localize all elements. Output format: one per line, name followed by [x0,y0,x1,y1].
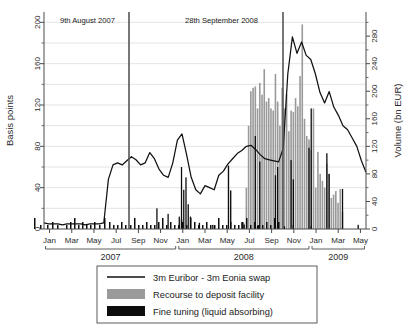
bar-fine-tuning [47,225,49,229]
bar-fine-tuning [194,222,196,229]
bar-deposit [315,188,317,229]
x-tick-label-jul-9: Jul [244,236,254,245]
bar-fine-tuning [242,222,244,229]
bar-deposit [313,108,315,229]
y-tick-label-left: 0 [33,226,42,231]
x-year-label-2007: 2007 [101,252,121,262]
legend-label-1: Recourse to deposit facility [153,290,264,300]
bar-fine-tuning [150,225,152,229]
bar-fine-tuning [117,225,119,229]
y-tick-label-right: 200 [370,84,379,98]
legend-label-0: 3m Euribor - 3m Eonia swap [153,273,270,283]
bar-fine-tuning [243,225,244,229]
bar-fine-tuning [277,167,278,229]
bar-fine-tuning [154,225,156,229]
bar-deposit [257,108,259,229]
bar-deposit [317,152,319,229]
bar-deposit [288,131,290,229]
y-tick-label-right: 240 [370,56,379,70]
bar-deposit [279,126,281,229]
bar-fine-tuning [113,225,115,229]
x-tick-label-may-2: May [86,236,101,245]
bar-fine-tuning [218,218,220,229]
bar-fine-tuning [167,214,168,229]
x-tick-label-sep-10: Sep [265,236,280,245]
x-tick-label-jan-6: Jan [176,236,189,245]
bar-fine-tuning [222,225,224,229]
y-axis-title-right: Volume (bn EUR) [392,84,403,158]
bar-fine-tuning [188,204,189,229]
x-tick-label-jan-12: Jan [310,236,323,245]
x-year-bracket [179,246,309,249]
bar-fine-tuning [158,222,160,229]
x-tick-label-may-8: May [220,236,235,245]
bar-fine-tuning [357,225,358,229]
bar-fine-tuning [142,225,144,229]
legend-swatch-fine-tuning [107,306,145,316]
y-tick-label-right: 40 [370,196,379,205]
bar-deposit [337,203,339,229]
bar-deposit [286,95,288,229]
bar-deposit [335,191,337,229]
bar-deposit [306,136,308,229]
bar-fine-tuning [99,225,101,229]
bar-deposit [304,119,306,229]
bar-fine-tuning [270,225,272,229]
bar-deposit [270,108,272,229]
y-tick-label-right: 0 [370,226,379,231]
bar-deposit [252,88,254,229]
bar-deposit [331,198,333,229]
bar-deposit [261,95,263,229]
bar-fine-tuning [230,222,232,229]
x-year-label-2009: 2009 [328,252,348,262]
bar-deposit [248,126,250,229]
bar-fine-tuning [290,160,291,229]
bar-fine-tuning [66,225,68,229]
bar-fine-tuning [228,166,229,229]
euribor-eonia-spread-chart: 9th August 200728th September 2008040801… [0,0,414,331]
bar-deposit [295,98,297,229]
bar-fine-tuning [146,222,148,229]
x-tick-label-nov-5: Nov [153,236,167,245]
x-tick-label-sep-4: Sep [131,236,146,245]
bar-fine-tuning [206,222,208,229]
bar-fine-tuning [130,225,132,229]
bar-fine-tuning [174,225,176,229]
bar-fine-tuning [266,222,268,229]
bar-deposit [324,188,326,229]
bar-deposit [339,189,341,229]
bar-fine-tuning [94,222,96,229]
legend-swatch-deposit [107,289,145,299]
legend-label-2: Fine tuning (liquid absorbing) [153,307,273,317]
bar-fine-tuning [259,161,260,229]
x-year-label-2008: 2008 [234,252,254,262]
x-tick-label-nov-11: Nov [287,236,301,245]
bar-deposit [301,24,303,229]
bar-fine-tuning [182,222,184,229]
bar-fine-tuning [311,108,312,229]
bar-fine-tuning [70,222,72,229]
y-tick-label-left: 200 [33,15,42,29]
y-tick-label-right: 80 [370,169,379,178]
bar-fine-tuning [278,222,280,229]
y-tick-label-right: 160 [370,112,379,126]
bar-fine-tuning [234,225,236,229]
annotation-28-september-2008: 28th September 2008 [185,16,258,25]
x-tick-label-mar-1: Mar [65,236,79,245]
bar-deposit [333,195,335,229]
bar-deposit [266,102,268,229]
legend-item-1: Recourse to deposit facility [107,289,264,300]
bar-fine-tuning [156,208,157,229]
x-tick-label-may-14: May [353,236,368,245]
bar-fine-tuning [326,153,327,229]
bar-fine-tuning [328,174,329,229]
bar-fine-tuning [262,225,264,229]
bar-fine-tuning [162,218,164,229]
bar-fine-tuning [86,225,88,229]
bar-fine-tuning [226,225,228,229]
bar-fine-tuning [258,225,260,229]
annotation-9-august-2007: 9th August 2007 [60,16,115,25]
y-tick-label-left: 120 [33,98,42,112]
bar-fine-tuning [178,225,180,229]
bar-fine-tuning [342,189,343,229]
